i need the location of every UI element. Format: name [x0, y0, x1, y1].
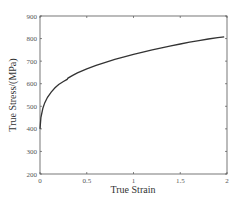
stress-strain-chart: 00.511.52 200300400500600700800900 True …: [0, 0, 242, 206]
y-tick-labels: 200300400500600700800900: [27, 13, 38, 179]
axis-ticks: [40, 16, 227, 174]
y-tick-label: 300: [27, 148, 38, 156]
x-tick-label: 2: [225, 177, 229, 185]
x-tick-label: 0: [38, 177, 42, 185]
y-tick-label: 400: [27, 125, 38, 133]
x-tick-label: 1.5: [176, 177, 185, 185]
axes-frame: [40, 16, 227, 174]
data-line: [40, 37, 224, 129]
y-tick-label: 600: [27, 80, 38, 88]
y-tick-label: 900: [27, 13, 38, 21]
y-tick-label: 700: [27, 58, 38, 66]
y-tick-label: 500: [27, 103, 38, 111]
x-axis-title: True Strain: [111, 184, 156, 195]
y-axis-title: True Stress/(MPa): [7, 58, 19, 131]
y-tick-label: 800: [27, 35, 38, 43]
y-tick-label: 200: [27, 171, 38, 179]
plot-area: [40, 16, 227, 174]
x-tick-label: 0.5: [82, 177, 91, 185]
